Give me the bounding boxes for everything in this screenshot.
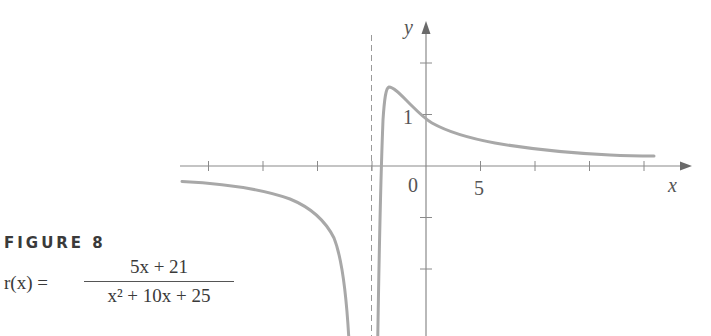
tick-label-y-1: 1 (403, 106, 413, 128)
formula-numerator: 5x + 21 (84, 256, 234, 278)
formula-lhs: r(x) = (4, 272, 48, 294)
figure-label: FIGURE 8 (4, 234, 106, 252)
tick-label-x-0: 0 (408, 174, 418, 196)
formula-fraction: 5x + 21 x² + 10x + 25 (84, 256, 234, 307)
formula-denominator: x² + 10x + 25 (84, 285, 234, 307)
curve-right-branch (378, 87, 654, 336)
fraction-bar (84, 281, 234, 282)
y-axis-label: y (402, 16, 413, 39)
x-axis-arrow-icon (680, 162, 692, 171)
tick-label-x-5: 5 (474, 177, 484, 199)
x-axis-label: x (667, 174, 677, 196)
y-axis-arrow-icon (422, 21, 431, 34)
